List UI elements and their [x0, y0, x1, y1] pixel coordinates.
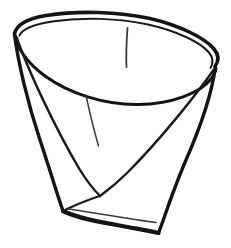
paper-cup-illustration: Folded paper cup Black ink outline drawi… [0, 0, 231, 248]
drawing-canvas: Folded paper cup Black ink outline drawi… [0, 0, 231, 248]
